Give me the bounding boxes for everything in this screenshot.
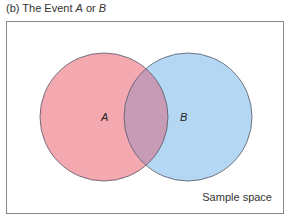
sample-space-label: Sample space (202, 191, 272, 203)
label-a: A (100, 111, 108, 123)
label-b: B (180, 111, 187, 123)
venn-diagram: A B Sample space (0, 0, 300, 219)
